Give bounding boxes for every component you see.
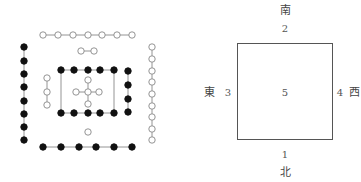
label-west: 西 [349, 88, 360, 98]
label-number-5: 5 [282, 88, 288, 98]
label-number-3: 3 [225, 88, 231, 98]
label-number-1: 1 [282, 150, 288, 160]
label-north: 北 [280, 168, 291, 178]
label-south: 南 [280, 6, 291, 16]
luoshu-square-diagram: 南 2 東 3 5 4 西 1 北 [0, 0, 361, 182]
label-number-2: 2 [282, 24, 288, 34]
label-east: 東 [204, 88, 215, 98]
label-number-4: 4 [337, 88, 343, 98]
